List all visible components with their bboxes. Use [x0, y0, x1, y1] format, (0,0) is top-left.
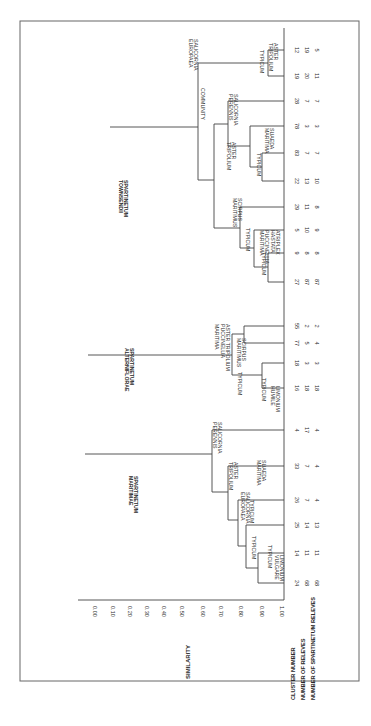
leaf-value: 18: [304, 385, 310, 391]
leaf-value: 8: [314, 205, 320, 208]
leaf-value: 78: [294, 123, 300, 129]
leaf-value: 8: [314, 251, 320, 254]
axis-tick-label: 0.80: [238, 606, 244, 617]
leaf-value: 87: [314, 279, 320, 285]
leaf-value: 22: [294, 178, 300, 184]
label-community: COMMUNITY: [200, 88, 206, 121]
leaf-value: 13: [304, 178, 310, 184]
label-typicum: TYPICUM: [259, 50, 265, 73]
axis-tick-label: 1.00: [279, 606, 285, 617]
axis-ticks: 0.000.100.200.300.400.500.600.700.800.90…: [92, 606, 285, 617]
leaf-value: 28: [294, 98, 300, 104]
axis-title: SIMILARITY: [185, 645, 191, 679]
leaf-value: 7: [304, 151, 310, 154]
axis-tick-label: 0.60: [200, 606, 206, 617]
leaf-value: 33: [294, 463, 300, 469]
label-spartinetum-maritimae: MARITIMAE: [128, 476, 134, 506]
label-salicornia-perennis: PERENNIS: [228, 94, 234, 121]
leaf-value: 11: [304, 204, 310, 210]
leaf-value: 17: [304, 427, 310, 433]
dendrogram-svg: 0.000.100.200.300.400.500.600.700.800.90…: [0, 0, 371, 726]
leaf-value: 11: [314, 550, 320, 556]
row-label: NUMBER OF SPARTINETUM RELEVES: [310, 597, 316, 700]
label-aster-tripolium: TRIPOLIUM: [268, 43, 274, 71]
label-aster-puccinellia: MARITIMA: [214, 324, 220, 350]
row-labels: CLUSTER NUMBERNUMBER OF RELEVESNUMBER OF…: [290, 597, 316, 700]
leaf-value: 14: [304, 522, 310, 528]
leaf-value: 11: [314, 73, 320, 79]
axis-tick-label: 0.50: [179, 606, 185, 617]
leaf-value: 9: [294, 251, 300, 254]
label-typicum: TYPICUM: [267, 545, 273, 568]
label-spartinetum-alterniflorae: ALTERNIFLORAE: [124, 348, 130, 392]
leaf-value: 20: [304, 73, 310, 79]
leaf-value: 7: [314, 99, 320, 102]
leaf-value: 10: [304, 227, 310, 233]
label-salicornia-europaea: EUROPAEA: [188, 39, 194, 68]
label-typicum: TYPICUM: [251, 536, 257, 559]
leaf-value: 3: [314, 361, 320, 364]
label-salicornia-europaea: EUROPAEA: [240, 492, 246, 521]
label-spartinetum-townsendii: TOWNSENDII: [118, 180, 124, 214]
axis-tick-label: 0.40: [161, 606, 167, 617]
leaf-value: 4: [314, 464, 320, 467]
leaf-value: 2: [314, 324, 320, 327]
leaf-value: 18: [314, 385, 320, 391]
leaf-value: 55: [294, 323, 300, 329]
label-typicum: TYPICUM: [256, 153, 262, 176]
label-limonium-vulgare: VULGARE: [274, 555, 280, 580]
leaf-value: 3: [304, 361, 310, 364]
leaf-value: 11: [304, 550, 310, 556]
leaf-value: 26: [294, 497, 300, 503]
leaf-value: 25: [294, 522, 300, 528]
leaf-value: 18: [294, 360, 300, 366]
leaf-value: 13: [314, 522, 320, 528]
label-limonium-humile: HUMILE: [270, 386, 276, 406]
leaf-value: 27: [294, 279, 300, 285]
leaf-value: 4: [314, 428, 320, 431]
leaf-value: 2: [304, 324, 310, 327]
axis-tick-label: 0.10: [110, 606, 116, 617]
leaf-value: 8: [304, 251, 310, 254]
row-label: CLUSTER NUMBER: [290, 647, 296, 700]
leaf-value: 7: [304, 464, 310, 467]
leaf-value: 12: [294, 47, 300, 53]
leaf-value: 4: [294, 428, 300, 431]
leaf-value: 3: [304, 124, 310, 127]
label-salicornia-perennis: PERENNIS: [212, 422, 218, 449]
label-suaeda-maritima: MARITIMA: [264, 128, 270, 154]
leaf-value: 7: [304, 99, 310, 102]
label-typicum: TYPICUM: [237, 372, 243, 395]
leaf-value: 7: [304, 498, 310, 501]
leaf-value: 24: [294, 580, 300, 586]
leaf-value: 14: [294, 550, 300, 556]
label-suaeda-maritima: MARITIMA: [256, 460, 262, 486]
leaf-value: 7: [314, 151, 320, 154]
label-atriplex-puccinellia: MARITIMA: [259, 230, 265, 256]
leaf-value: 19: [304, 47, 310, 53]
leaf-value: 10: [314, 178, 320, 184]
leaf-value: 77: [294, 340, 300, 346]
axis-tick-label: 0.30: [144, 606, 150, 617]
label-aster-tripolium: TRIPOLIUM: [228, 462, 234, 490]
label-typicum: TYPICUM: [245, 228, 251, 251]
label-scirpus-maritimus: MARITIMUS: [236, 338, 242, 368]
label-aster-tripolium: TRIPOLIUM: [226, 142, 232, 170]
leaf-numbers: 2468681411112514132674337441741618181833…: [294, 47, 320, 586]
axis-label: SIMILARITY: [185, 645, 191, 679]
leaf-value: 68: [304, 580, 310, 586]
axis-tick-label: 0.00: [92, 606, 98, 617]
leaf-value: 19: [294, 73, 300, 79]
axis-tick-label: 0.20: [127, 606, 133, 617]
leaf-value: 5: [294, 228, 300, 231]
leaf-value: 68: [314, 580, 320, 586]
leaf-value: 87: [304, 279, 310, 285]
leaf-value: 5: [314, 48, 320, 51]
dendrogram-figure: 0.000.100.200.300.400.500.600.700.800.90…: [0, 0, 371, 726]
axis-tick-label: 0.90: [259, 606, 265, 617]
leaf-value: 3: [314, 124, 320, 127]
leaf-value: 5: [304, 341, 310, 344]
row-label: NUMBER OF RELEVES: [300, 638, 306, 700]
axis-tick-label: 0.70: [218, 606, 224, 617]
label-scirpus-maritimus: MARITIMUS: [232, 198, 238, 228]
